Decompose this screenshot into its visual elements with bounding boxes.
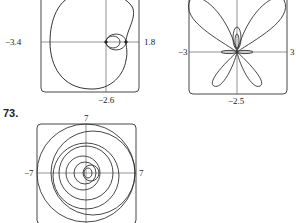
butterfly-label-right: 3	[290, 48, 295, 57]
cardioid-label-bottom: −2.6	[98, 96, 114, 105]
butterfly-label-bottom: −2.5	[228, 97, 244, 106]
figure-canvas	[0, 0, 296, 223]
circles-label-right: 7	[139, 169, 144, 178]
cardioid-label-left: −3.4	[5, 38, 21, 47]
cardioid-plot	[41, 0, 139, 92]
circles-label-top: 7	[84, 114, 89, 123]
cardioid-label-right: 1.8	[144, 38, 155, 47]
butterfly-plot	[188, 0, 287, 94]
butterfly-label-left: −3	[178, 48, 188, 57]
circles-label-left: −7	[24, 169, 34, 178]
nested-circles-plot	[37, 124, 136, 223]
figure-number: 73.	[3, 107, 18, 119]
